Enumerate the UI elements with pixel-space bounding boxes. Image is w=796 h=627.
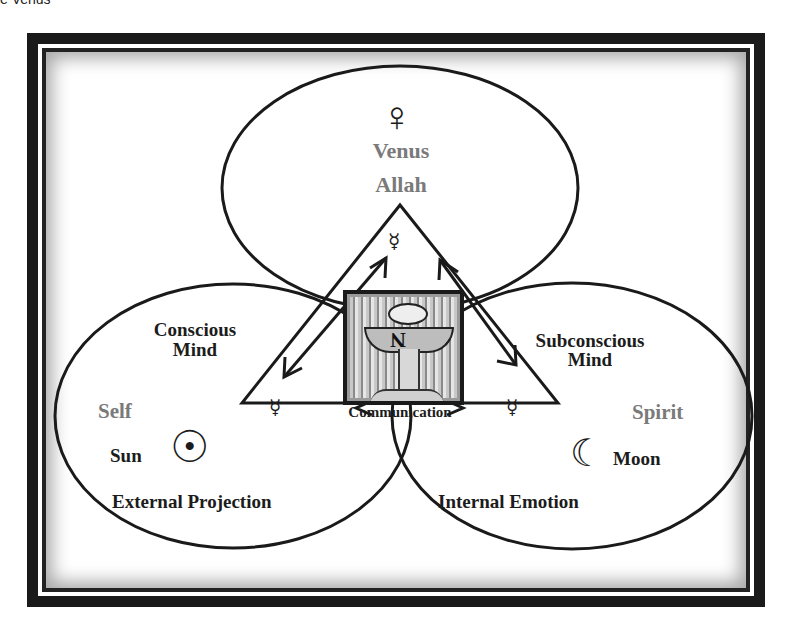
communication-label: Communication	[316, 405, 484, 420]
subconscious-label: Subconscious	[515, 331, 665, 350]
conscious-mind-label: Mind	[120, 340, 270, 359]
subconscious-mind-label: Mind	[515, 350, 665, 369]
external-projection-label: External Projection	[112, 492, 272, 511]
internal-emotion-label: Internal Emotion	[438, 492, 579, 511]
mercury-top-icon: ☿	[388, 231, 400, 251]
sun-label: Sun	[110, 446, 142, 465]
card-letter: N	[390, 327, 406, 353]
moon-label: Moon	[613, 449, 661, 468]
card-engraving: N	[350, 297, 457, 398]
venus-label: Venus	[360, 140, 442, 162]
mercury-right-icon: ☿	[506, 397, 518, 417]
mercury-left-icon: ☿	[269, 397, 281, 417]
card-base	[370, 389, 444, 405]
tarot-card-image: N	[343, 290, 464, 405]
self-label: Self	[98, 401, 132, 422]
moon-symbol-icon: ☾	[570, 434, 604, 472]
spirit-label: Spirit	[632, 402, 683, 423]
card-disc-icon	[388, 303, 428, 325]
allah-label: Allah	[360, 174, 442, 196]
conscious-label: Conscious	[120, 320, 270, 339]
venus-symbol-icon: ♀	[381, 96, 413, 138]
sun-symbol-icon: ☉	[170, 426, 209, 470]
